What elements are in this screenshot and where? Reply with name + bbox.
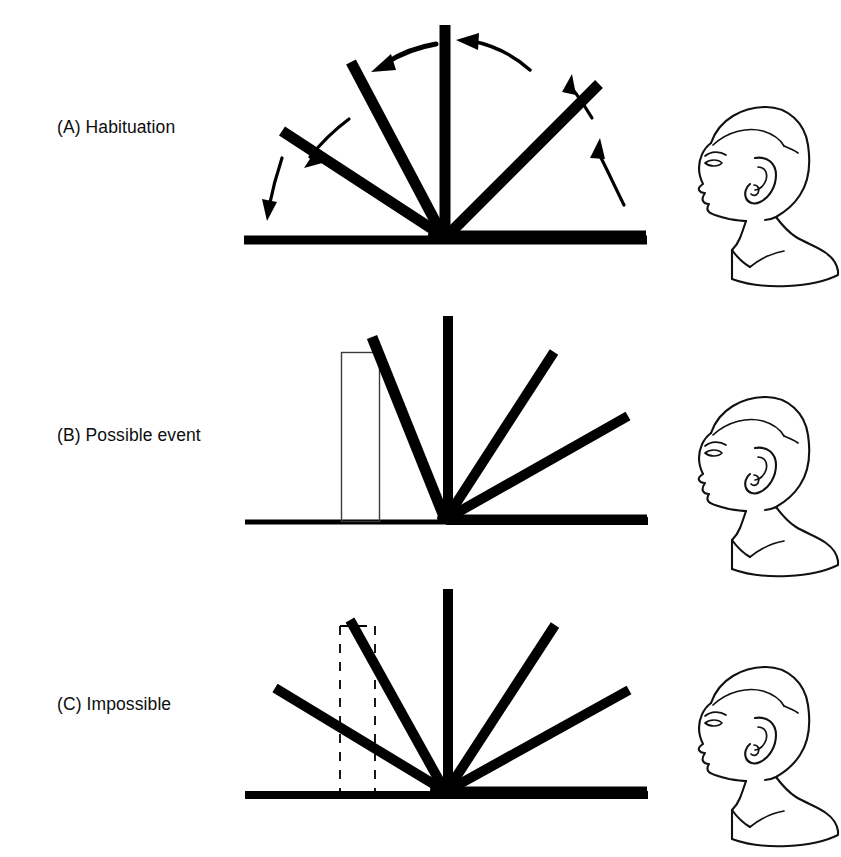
panel-a-screen-45deg — [447, 84, 599, 236]
panel-b-box — [342, 353, 380, 522]
panel-a-arrow-1 — [386, 44, 436, 63]
panel-a-arrow-3-head — [304, 148, 326, 168]
panel-c-box-dashed — [340, 626, 375, 791]
panel-label-a: (A) Habituation — [57, 117, 175, 138]
panel-c-screen-38deg — [447, 690, 629, 791]
panel-a-arrow-4-head — [262, 199, 277, 221]
panel-a-screen-180deg — [282, 131, 443, 236]
panel-label-b: (B) Possible event — [57, 425, 201, 446]
panel-a-arrow-2-head — [456, 33, 479, 50]
panel-a-arrow-3 — [310, 119, 349, 157]
panel-c-screen-72deg — [447, 625, 555, 791]
panel-a-arrow-6 — [570, 86, 592, 118]
panel-b-screen-60deg — [446, 352, 554, 519]
panel-a-screen-135deg — [351, 62, 443, 236]
panel-a-arrow-5-head — [590, 138, 605, 159]
panel-a-arrow-5 — [597, 150, 624, 205]
panel-label-c: (C) Impossible — [57, 694, 171, 715]
panel-a-diagram — [244, 25, 647, 244]
infant-head-icon-b — [699, 397, 838, 576]
panel-b-screen-30deg — [446, 416, 628, 519]
panel-c-diagram — [245, 589, 648, 799]
panel-a-arrow-4 — [269, 158, 282, 207]
infant-head-icon-a — [699, 107, 838, 286]
infant-head-icon-c — [699, 667, 838, 846]
panel-c-screen-118deg — [350, 620, 445, 791]
panel-b-diagram — [245, 316, 648, 524]
panel-a-pivot — [428, 226, 462, 244]
panel-a-arrow-1-head — [371, 54, 396, 72]
panel-a-arrow-6-head — [562, 74, 576, 95]
panel-c-pivot — [430, 781, 462, 799]
panel-b-screen-112deg — [372, 337, 445, 519]
panel-c-screen-155deg — [275, 688, 445, 791]
figure-root: (A) Habituation (B) Possible event (C) I… — [0, 0, 841, 857]
panel-b-pivot — [437, 512, 455, 524]
panel-a-arrow-2 — [472, 41, 530, 70]
